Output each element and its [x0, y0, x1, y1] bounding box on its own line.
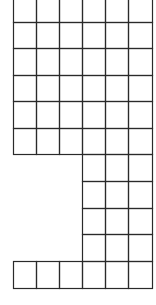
grid-cell — [83, 155, 106, 182]
grid-cell — [106, 49, 129, 76]
grid-cell — [60, 0, 83, 23]
grid-cell — [14, 49, 37, 76]
grid-cell — [106, 235, 129, 262]
grid-cell — [106, 23, 129, 49]
grid-cell — [60, 102, 83, 129]
grid-cell — [37, 262, 60, 289]
grid-cell — [129, 129, 153, 155]
grid-cell — [37, 0, 60, 23]
grid-cell — [129, 49, 153, 76]
grid-cell — [106, 129, 129, 155]
grid-cell — [129, 76, 153, 102]
grid-cell — [83, 182, 106, 209]
grid-cell — [83, 49, 106, 76]
grid-cell — [83, 262, 106, 289]
grid-cell — [106, 209, 129, 235]
grid-cell — [83, 23, 106, 49]
grid-cell — [83, 0, 106, 23]
grid-cell — [106, 155, 129, 182]
grid-cell — [129, 0, 153, 23]
grid-cell — [129, 235, 153, 262]
grid-cell — [37, 49, 60, 76]
grid-cell — [14, 262, 37, 289]
grid-cell — [129, 102, 153, 129]
grid-cell — [106, 182, 129, 209]
grid-cell — [37, 102, 60, 129]
grid-cell — [83, 209, 106, 235]
grid-cell — [129, 182, 153, 209]
grid-diagram — [0, 0, 156, 305]
grid-cell — [14, 23, 37, 49]
grid-cell — [60, 49, 83, 76]
grid-cell — [106, 102, 129, 129]
grid-cell — [14, 102, 37, 129]
grid-cell — [129, 155, 153, 182]
grid-cell — [60, 262, 83, 289]
grid-cell — [60, 76, 83, 102]
grid-cell — [106, 76, 129, 102]
grid-cell — [14, 129, 37, 155]
grid-cell — [60, 23, 83, 49]
grid-cell — [37, 129, 60, 155]
grid-cell — [106, 0, 129, 23]
grid-cell — [14, 76, 37, 102]
grid-cell — [129, 209, 153, 235]
grid-cell — [83, 76, 106, 102]
grid-cell — [14, 0, 37, 23]
grid-cell — [83, 235, 106, 262]
grid-cell — [37, 76, 60, 102]
grid-cell — [83, 129, 106, 155]
grid-cell — [60, 129, 83, 155]
grid-cell — [129, 262, 153, 289]
grid-cell — [129, 23, 153, 49]
grid-cell — [83, 102, 106, 129]
grid-cell — [106, 262, 129, 289]
grid-cell — [37, 23, 60, 49]
